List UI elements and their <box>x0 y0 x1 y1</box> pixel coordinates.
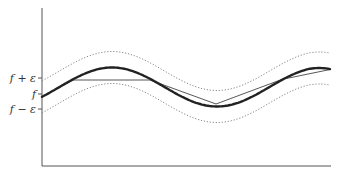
diagram-canvas: f + ε f f − ε <box>0 0 344 177</box>
lower-band-curve <box>42 84 330 123</box>
function-curve <box>42 68 330 107</box>
label-f: f <box>31 88 38 101</box>
label-f-minus-epsilon: f − ε <box>9 103 36 116</box>
upper-band-curve <box>42 52 330 91</box>
label-f-plus-epsilon: f + ε <box>9 72 36 85</box>
